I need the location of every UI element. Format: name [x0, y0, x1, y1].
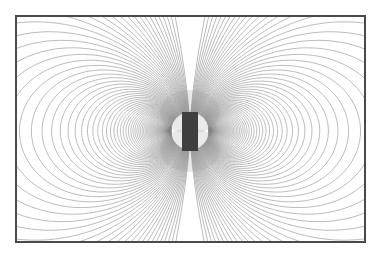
bar-magnet	[182, 112, 198, 151]
magnetic-field-diagram	[17, 17, 364, 241]
diagram-frame	[15, 15, 366, 243]
